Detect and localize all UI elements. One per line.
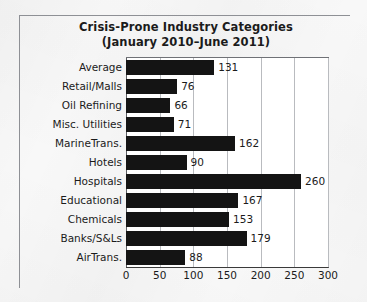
bar-row: 76	[126, 79, 328, 95]
bar-series: 1317666711629026016715317988	[126, 58, 328, 267]
bar-row: 88	[126, 250, 328, 266]
category-label: Educational	[20, 194, 122, 205]
x-axis-tick-labels: 050100150200250300	[126, 270, 328, 286]
category-label: Misc. Utilities	[20, 118, 122, 129]
category-label: Hotels	[20, 156, 122, 167]
bar-value-label: 131	[218, 62, 238, 73]
bar	[126, 174, 301, 190]
bar-row: 131	[126, 60, 328, 76]
bar-value-label: 88	[189, 252, 202, 263]
bar-value-label: 76	[181, 81, 194, 92]
bar	[126, 79, 177, 95]
bar-row: 66	[126, 98, 328, 114]
plot-area: 1317666711629026016715317988	[126, 57, 329, 268]
chart-subtitle: (January 2010–June 2011)	[28, 35, 344, 50]
bar-value-label: 260	[305, 176, 325, 187]
bar-row: 179	[126, 231, 328, 247]
category-label: MarineTrans.	[20, 137, 122, 148]
bar	[126, 98, 170, 114]
bar-row: 162	[126, 136, 328, 152]
x-tick-100: 100	[183, 270, 203, 281]
bar	[126, 250, 185, 266]
category-label: AirTrans.	[20, 251, 122, 262]
chart-title-main: Crisis-Prone Industry Categories	[79, 20, 293, 34]
x-tick-300: 300	[318, 270, 338, 281]
bar-value-label: 66	[174, 100, 187, 111]
bar-row: 260	[126, 174, 328, 190]
bar-value-label: 162	[239, 138, 259, 149]
bar	[126, 136, 235, 152]
bar-row: 90	[126, 155, 328, 171]
bar-row: 153	[126, 212, 328, 228]
x-tick-200: 200	[251, 270, 271, 281]
category-label: Oil Refining	[20, 99, 122, 110]
bar	[126, 212, 229, 228]
bar	[126, 231, 247, 247]
category-label: Hospitals	[20, 175, 122, 186]
bar-value-label: 153	[233, 214, 253, 225]
bar-value-label: 167	[242, 195, 262, 206]
category-label: Chemicals	[20, 213, 122, 224]
gridline-300	[328, 58, 329, 267]
bar	[126, 117, 174, 133]
bar-value-label: 90	[191, 157, 204, 168]
chart-title: Crisis-Prone Industry Categories (Januar…	[28, 20, 344, 50]
bar-value-label: 179	[251, 233, 271, 244]
bar	[126, 60, 214, 76]
category-label: Average	[20, 61, 122, 72]
bar-value-label: 71	[178, 119, 191, 130]
bar-row: 167	[126, 193, 328, 209]
category-axis-labels: AverageRetail/MallsOil RefiningMisc. Uti…	[20, 57, 122, 266]
bar	[126, 155, 187, 171]
x-tick-250: 250	[284, 270, 304, 281]
x-tick-0: 0	[123, 270, 130, 281]
bar-row: 71	[126, 117, 328, 133]
bar	[126, 193, 238, 209]
category-label: Retail/Malls	[20, 80, 122, 91]
x-tick-50: 50	[153, 270, 166, 281]
x-tick-150: 150	[217, 270, 237, 281]
category-label: Banks/S&Ls	[20, 232, 122, 243]
